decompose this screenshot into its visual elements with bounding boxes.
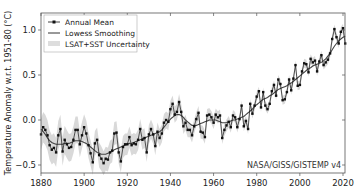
legend-annual-mean: Annual Mean xyxy=(65,18,114,27)
svg-text:0.5: 0.5 xyxy=(22,70,36,80)
legend-lowess: Lowess Smoothing xyxy=(65,29,135,38)
y-axis-label: Temperature Anomaly w.r.t. 1951-80 (°C) xyxy=(4,11,13,176)
svg-text:−0.5: −0.5 xyxy=(15,160,36,170)
temperature-anomaly-chart: 18801900192019401960198020002020 −0.50.0… xyxy=(0,0,354,192)
uncertainty-patch-icon xyxy=(48,41,60,46)
svg-text:2000: 2000 xyxy=(289,178,311,188)
svg-text:1900: 1900 xyxy=(73,178,95,188)
svg-text:1920: 1920 xyxy=(116,178,138,188)
source-credit: NASA/GISS/GISTEMP v4 xyxy=(247,161,341,170)
legend-uncertainty: LSAT+SST Uncertainty xyxy=(65,40,150,49)
svg-text:1.0: 1.0 xyxy=(22,25,36,35)
svg-text:1940: 1940 xyxy=(160,178,182,188)
svg-text:2020: 2020 xyxy=(332,178,354,188)
svg-text:1880: 1880 xyxy=(30,178,52,188)
svg-text:0.0: 0.0 xyxy=(22,115,36,125)
legend: Annual Mean Lowess Smoothing LSAT+SST Un… xyxy=(44,15,150,52)
svg-text:1960: 1960 xyxy=(203,178,225,188)
annual-mean-marker-icon xyxy=(53,21,56,24)
svg-text:1980: 1980 xyxy=(246,178,268,188)
